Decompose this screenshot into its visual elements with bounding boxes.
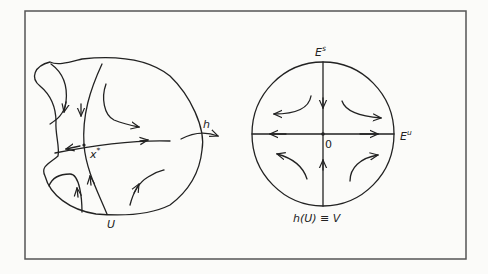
unstable-subspace-label: Eu — [400, 128, 412, 143]
region-u-label: U — [107, 218, 115, 231]
fixed-point-x-star — [82, 143, 85, 146]
map-label: h — [203, 118, 210, 131]
separatrix-unstable — [55, 141, 170, 153]
separatrix-stable — [84, 64, 107, 214]
image-label: h(U) ≡ V — [293, 212, 342, 225]
map-h: h — [181, 118, 218, 139]
origin-label: 0 — [325, 138, 332, 151]
diagram-canvas: x* U h 0 Es Eu h(U) ≡ V — [0, 0, 488, 274]
neighborhood-u: x* U — [35, 58, 203, 231]
fixed-point-label: x* — [89, 146, 101, 161]
map-arrow — [181, 133, 218, 139]
region-u-boundary — [35, 58, 203, 215]
stable-subspace-label: Es — [315, 44, 326, 59]
disc-v: 0 Es Eu h(U) ≡ V — [252, 44, 412, 225]
origin-point — [321, 132, 325, 136]
